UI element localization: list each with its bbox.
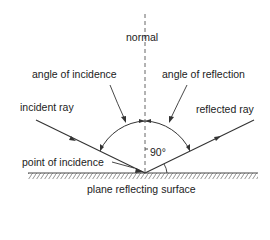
- surface-angle-arc: [164, 164, 167, 173]
- label-reflected-ray: reflected ray: [196, 104, 254, 115]
- label-surface: plane reflecting surface: [87, 184, 196, 195]
- label-normal: normal: [126, 32, 158, 43]
- label-90-degrees: 90°: [150, 147, 166, 158]
- label-incident-ray: incident ray: [20, 102, 74, 113]
- incidence-arc: [100, 121, 145, 151]
- reflection-leader-arrow-icon: [169, 116, 174, 123]
- reflected-arrow-icon: [214, 136, 221, 141]
- incidence-leader-arrow-icon: [121, 116, 126, 123]
- label-angle-reflection: angle of reflection: [162, 69, 245, 80]
- surface-hatch: [28, 173, 258, 179]
- arc-arrow-top-left-icon: [139, 119, 145, 123]
- label-point-incidence: point of incidence: [22, 157, 104, 168]
- arc-arrow-top-right-icon: [145, 119, 151, 123]
- reflection-leader: [170, 85, 187, 120]
- label-angle-incidence: angle of incidence: [32, 69, 117, 80]
- incidence-leader: [110, 85, 125, 120]
